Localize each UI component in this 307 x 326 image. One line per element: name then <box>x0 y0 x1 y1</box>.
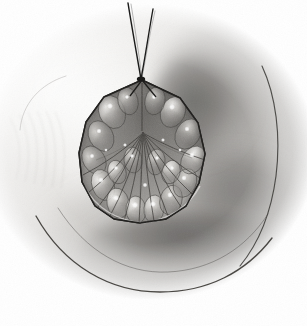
paper-grain <box>0 0 307 326</box>
breast-flap-illustration <box>0 0 307 326</box>
illustration-canvas: Surgical exposure of breast parenchyma B… <box>0 0 307 326</box>
